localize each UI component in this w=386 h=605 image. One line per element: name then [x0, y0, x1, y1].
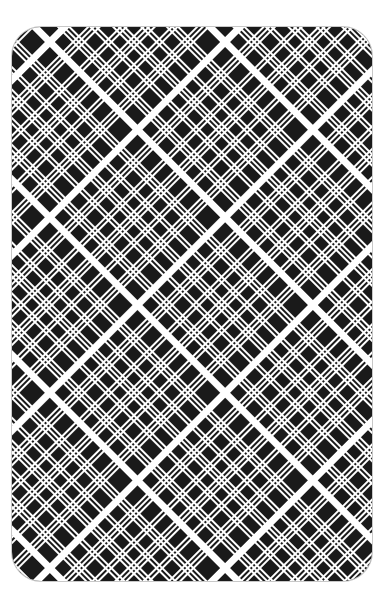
playing-card-back[interactable]	[11, 26, 373, 582]
tartan-pattern	[12, 27, 373, 582]
